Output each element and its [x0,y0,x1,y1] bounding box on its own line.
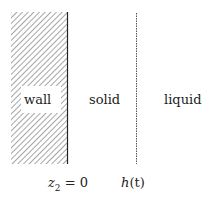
wall-interface-var: z [48,175,55,190]
liquid-label: liquid [164,93,202,106]
wall-interface-label: z2 = 0 [48,176,88,193]
wall-label: wall [24,93,51,106]
phase-front-label: h(t) [121,176,145,189]
wall-interface-rest: = 0 [61,175,88,190]
phase-front-rest: (t) [129,175,144,190]
solidification-diagram: wall solid liquid z2 = 0 h(t) [0,0,212,199]
solid-label: solid [89,93,120,106]
